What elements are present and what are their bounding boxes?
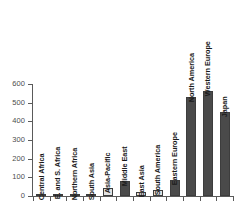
bar-label: E. and S. Africa xyxy=(54,147,61,199)
bar-label: Western Europe xyxy=(204,41,211,96)
bar-label: Eastern Europe xyxy=(171,132,178,185)
x-axis-tick xyxy=(50,197,51,201)
y-axis-tick-label: 100 xyxy=(0,173,25,181)
y-axis-tick-label: 500 xyxy=(0,99,25,107)
bar-label: Japan xyxy=(221,96,228,117)
bar-label: Asia-Pacific xyxy=(104,152,111,193)
y-axis-tick xyxy=(28,84,32,85)
bar[interactable] xyxy=(220,112,230,196)
y-axis-tick-label: 300 xyxy=(0,136,25,144)
bar-label: East Asia xyxy=(137,165,144,197)
x-axis-tick xyxy=(100,197,101,201)
x-axis-tick xyxy=(150,197,151,201)
y-axis-tick xyxy=(28,159,32,160)
x-axis-tick xyxy=(200,197,201,201)
bar-label: Northern Africa xyxy=(71,147,78,200)
x-axis-tick xyxy=(183,197,184,201)
x-axis-tick xyxy=(216,197,217,201)
y-axis-tick-label: 0 xyxy=(0,192,25,200)
bar[interactable] xyxy=(186,97,196,196)
bar-label: Middle East xyxy=(121,147,128,187)
x-axis-tick xyxy=(33,197,34,201)
bar-label: South Asia xyxy=(87,162,94,199)
x-axis-tick xyxy=(83,197,84,201)
y-axis-tick xyxy=(28,177,32,178)
y-axis-tick-label: 200 xyxy=(0,155,25,163)
y-axis-tick-label: 400 xyxy=(0,117,25,125)
bar[interactable] xyxy=(203,91,213,196)
y-axis-tick-label: 600 xyxy=(0,80,25,88)
y-axis-tick xyxy=(28,121,32,122)
x-axis-tick xyxy=(166,197,167,201)
bar-chart: 0100200300400500600 Central AfricaE. and… xyxy=(0,0,237,208)
x-axis-tick xyxy=(66,197,67,201)
plot-area: Central AfricaE. and S. AfricaNorthern A… xyxy=(33,84,233,196)
x-axis-tick xyxy=(233,197,234,201)
x-axis-tick xyxy=(133,197,134,201)
y-axis-tick xyxy=(28,103,32,104)
y-axis-tick xyxy=(28,140,32,141)
bar-label: North America xyxy=(187,53,194,102)
bar-label: South America xyxy=(154,145,161,196)
x-axis-tick xyxy=(116,197,117,201)
bar-label: Central Africa xyxy=(37,153,44,200)
